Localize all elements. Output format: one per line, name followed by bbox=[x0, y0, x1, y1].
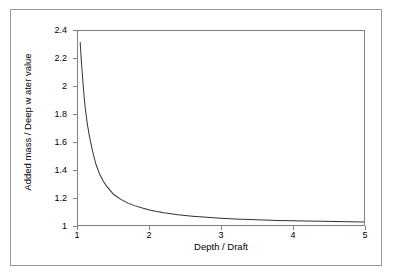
y-tick-label-2: 2 bbox=[37, 82, 67, 91]
x-axis-label: Depth / Draft bbox=[77, 241, 365, 252]
x-tick-label-5: 5 bbox=[353, 231, 377, 240]
y-tick-label-1_8: 1.8 bbox=[37, 110, 67, 119]
series-line-added-mass-ratio bbox=[80, 42, 364, 222]
y-axis-label: Added mass / Deep w ater value bbox=[21, 19, 35, 225]
curve-svg bbox=[78, 31, 364, 225]
plot-area bbox=[77, 30, 365, 226]
chart-figure: Added mass / Deep w ater value 2.4 2.2 2… bbox=[10, 9, 382, 266]
x-tick-label-1: 1 bbox=[65, 231, 89, 240]
y-tick-label-1_2: 1.2 bbox=[37, 194, 67, 203]
y-tick-label-1_6: 1.6 bbox=[37, 138, 67, 147]
x-tick-label-2: 2 bbox=[137, 231, 161, 240]
x-tick-label-4: 4 bbox=[281, 231, 305, 240]
y-tick-label-2_2: 2.2 bbox=[37, 54, 67, 63]
x-tick-label-3: 3 bbox=[209, 231, 233, 240]
y-tick-label-1: 1 bbox=[37, 222, 67, 231]
y-tick-label-1_4: 1.4 bbox=[37, 166, 67, 175]
y-tick-label-2_4: 2.4 bbox=[37, 26, 67, 35]
